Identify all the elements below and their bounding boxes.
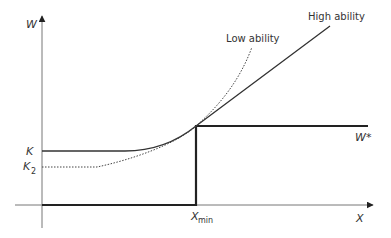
k2-subscript: 2 bbox=[31, 167, 36, 176]
y-axis-label: W bbox=[26, 18, 38, 31]
x-axis-label: X bbox=[355, 212, 364, 225]
high-ability-label: High ability bbox=[308, 11, 365, 22]
xmin-subscript: min bbox=[198, 216, 213, 225]
low-ability-label: Low ability bbox=[226, 33, 280, 44]
k-label: K bbox=[26, 145, 34, 158]
high-ability-curve bbox=[42, 26, 330, 151]
w-star-label: W* bbox=[355, 131, 372, 144]
k2-label: K bbox=[23, 160, 31, 173]
wage-step-function bbox=[42, 126, 368, 205]
wage-diagram: W X K K 2 W* X min High ability Low abil… bbox=[0, 0, 391, 238]
